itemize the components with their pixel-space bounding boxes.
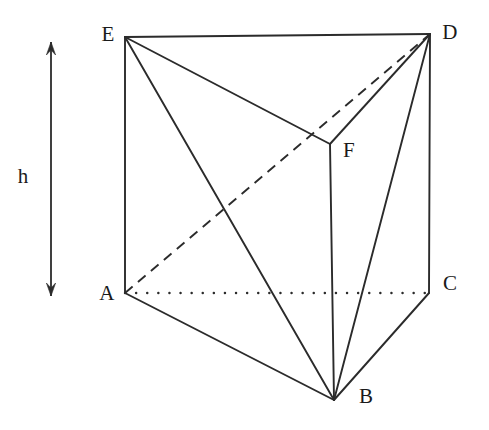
vertex-label-a: A xyxy=(99,283,114,304)
edge-E-D xyxy=(125,34,430,37)
edge-D-C xyxy=(429,34,430,293)
geometry-figure: EDFACB h xyxy=(0,0,489,430)
triangular-prism-drawing xyxy=(0,0,489,430)
hidden-diagonal-A-D xyxy=(125,34,430,293)
vertex-label-c: C xyxy=(443,273,457,294)
edge-F-B xyxy=(330,144,334,400)
vertex-label-f: F xyxy=(343,140,355,161)
vertex-label-b: B xyxy=(359,386,373,407)
vertex-label-e: E xyxy=(101,24,114,45)
height-arrow xyxy=(46,42,55,296)
height-label-h: h xyxy=(18,166,29,187)
vertex-label-d: D xyxy=(442,22,457,43)
prism-edges xyxy=(125,34,430,400)
